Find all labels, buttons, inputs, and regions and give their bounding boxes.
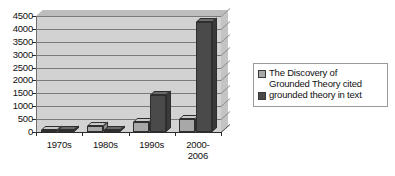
y-axis-tick-label: 1000 xyxy=(13,101,33,110)
plot-area xyxy=(36,10,229,132)
y-axis-tick-label: 2500 xyxy=(13,63,33,72)
bar xyxy=(87,122,103,132)
x-axis-tickmark xyxy=(36,132,37,136)
y-axis-tick-label: 3000 xyxy=(13,50,33,59)
bar-front-face xyxy=(133,122,149,132)
bar xyxy=(196,18,212,132)
gridline xyxy=(36,106,221,107)
y-axis-tickmark xyxy=(32,93,36,94)
bar-front-face xyxy=(179,119,195,132)
gridline xyxy=(36,93,221,94)
bar xyxy=(133,118,149,132)
chart-legend: The Discovery ofGrounded Theory cited gr… xyxy=(253,63,388,107)
legend-swatch-series-2 xyxy=(258,92,266,100)
y-axis-tick-label: 2000 xyxy=(13,75,33,84)
y-axis-tickmark xyxy=(32,132,36,133)
gridline xyxy=(36,29,221,30)
gridline xyxy=(36,68,221,69)
x-axis-tickmark xyxy=(82,132,83,136)
gridline xyxy=(36,80,221,81)
y-axis: 050010001500200025003000350040004500 xyxy=(0,0,33,176)
y-axis-tickmark xyxy=(32,16,36,17)
y-axis-tickmark xyxy=(32,29,36,30)
gridline xyxy=(36,55,221,56)
x-axis-category-label: 2000- 2006 xyxy=(169,139,227,161)
y-axis-tickmark xyxy=(32,42,36,43)
legend-item: grounded theory in text xyxy=(258,90,383,101)
bar xyxy=(179,115,195,132)
bar-front-face xyxy=(150,95,166,132)
gridline xyxy=(36,42,221,43)
legend-label-series-1: The Discovery ofGrounded Theory cited xyxy=(269,68,362,89)
y-axis-tickmark xyxy=(32,80,36,81)
y-axis-tickmark xyxy=(32,119,36,120)
gridline xyxy=(36,16,221,17)
y-axis-tickmark xyxy=(32,68,36,69)
bar xyxy=(150,91,166,132)
x-axis-tickmark xyxy=(129,132,130,136)
y-axis-tick-label: 3500 xyxy=(13,37,33,46)
bar-front-face xyxy=(196,22,212,132)
y-axis-tick-label: 4500 xyxy=(13,11,33,20)
y-axis-tickmark xyxy=(32,55,36,56)
legend-item: The Discovery ofGrounded Theory cited xyxy=(258,68,383,89)
x-axis-tickmark xyxy=(175,132,176,136)
y-axis-tick-label: 500 xyxy=(18,114,33,123)
bar-side-face xyxy=(212,18,217,132)
y-axis-tick-label: 4000 xyxy=(13,24,33,33)
bar-chart: 050010001500200025003000350040004500 197… xyxy=(0,0,395,176)
y-axis-tick-label: 1500 xyxy=(13,88,33,97)
x-axis-tickmark xyxy=(221,132,222,136)
bar-side-face xyxy=(166,90,171,132)
legend-label-series-2: grounded theory in text xyxy=(269,90,362,101)
y-axis-tickmark xyxy=(32,106,36,107)
legend-swatch-series-1 xyxy=(258,70,266,78)
